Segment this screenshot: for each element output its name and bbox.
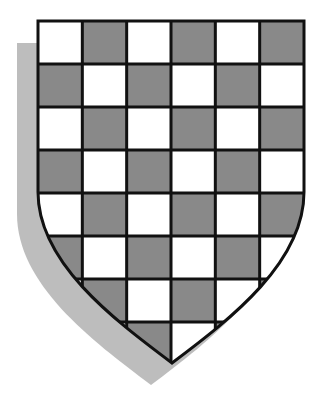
- dark-square: [171, 279, 215, 322]
- shield-figure: [0, 0, 326, 396]
- dark-square: [38, 64, 82, 107]
- light-square: [171, 64, 215, 107]
- light-square: [215, 21, 259, 64]
- light-square: [127, 107, 171, 150]
- light-square: [127, 21, 171, 64]
- dark-square: [127, 236, 171, 279]
- light-square: [215, 107, 259, 150]
- dark-square: [82, 21, 126, 64]
- dark-square: [260, 21, 304, 64]
- light-square: [171, 150, 215, 193]
- dark-square: [171, 193, 215, 236]
- light-square: [82, 64, 126, 107]
- dark-square: [38, 150, 82, 193]
- dark-square: [260, 279, 304, 322]
- light-square: [38, 21, 82, 64]
- light-square: [127, 193, 171, 236]
- light-square: [82, 150, 126, 193]
- light-square: [38, 107, 82, 150]
- light-square: [215, 279, 259, 322]
- dark-square: [215, 150, 259, 193]
- light-square: [215, 193, 259, 236]
- light-square: [171, 236, 215, 279]
- light-square: [82, 236, 126, 279]
- dark-square: [82, 193, 126, 236]
- dark-square: [171, 21, 215, 64]
- dark-square: [215, 64, 259, 107]
- dark-square: [127, 150, 171, 193]
- dark-square: [82, 107, 126, 150]
- light-square: [127, 279, 171, 322]
- dark-square: [215, 236, 259, 279]
- dark-square: [215, 322, 259, 365]
- light-square: [260, 150, 304, 193]
- dark-square: [127, 64, 171, 107]
- dark-square: [260, 107, 304, 150]
- light-square: [260, 322, 304, 365]
- light-square: [260, 64, 304, 107]
- dark-square: [171, 107, 215, 150]
- dark-square: [38, 322, 82, 365]
